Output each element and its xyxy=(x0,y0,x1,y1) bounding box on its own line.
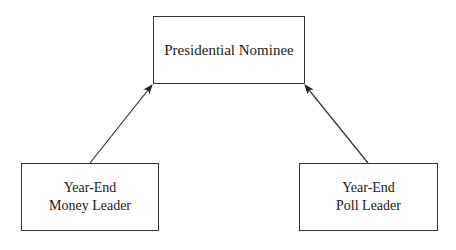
node-presidential-nominee: Presidential Nominee xyxy=(153,16,305,84)
node-year-end-money-leader: Year-End Money Leader xyxy=(21,163,159,231)
node-year-end-poll-leader: Year-End Poll Leader xyxy=(299,163,438,231)
node-label: Presidential Nominee xyxy=(164,41,294,59)
label-line: Year-End xyxy=(49,179,131,197)
node-label: Year-End Money Leader xyxy=(49,179,131,215)
label-line: Poll Leader xyxy=(336,197,401,215)
arrow-money-to-nominee xyxy=(90,85,152,163)
label-line: Money Leader xyxy=(49,197,131,215)
label-line: Year-End xyxy=(336,179,401,197)
node-label: Year-End Poll Leader xyxy=(336,179,401,215)
label-line: Presidential Nominee xyxy=(164,41,294,59)
arrow-poll-to-nominee xyxy=(305,85,368,163)
